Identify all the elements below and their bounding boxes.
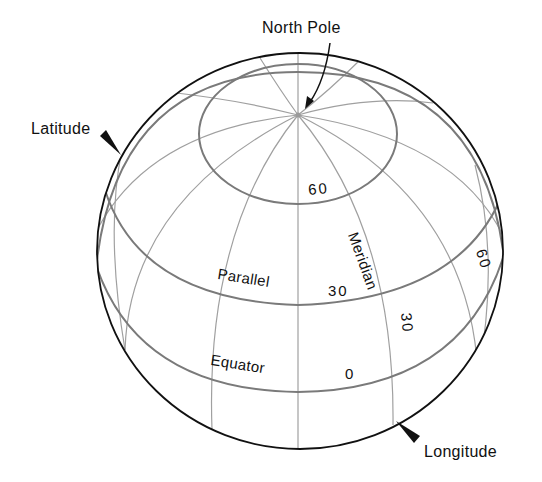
longitude-arrow-icon (396, 421, 420, 443)
parallel-30-front (105, 190, 500, 305)
meridian-east-90 (298, 115, 505, 240)
globe-outline (97, 53, 503, 449)
label-latitude: Latitude (31, 121, 90, 137)
globe-graphic (0, 0, 542, 482)
meridian-back-4 (298, 101, 433, 115)
equator (97, 258, 503, 392)
value-parallel-0: 0 (345, 366, 355, 381)
value-parallel-30: 30 (328, 283, 349, 298)
value-parallel-60: 60 (307, 180, 329, 197)
meridian-back-1 (260, 58, 298, 115)
label-north-pole: North Pole (262, 20, 341, 36)
label-longitude: Longitude (424, 444, 497, 460)
meridian-back-3 (168, 92, 298, 115)
latitude-arrow-icon (100, 130, 121, 155)
value-meridian-30: 30 (399, 312, 416, 334)
meridian-west-60 (125, 115, 298, 350)
globe-diagram: North Pole Latitude Longitude Meridian P… (0, 0, 542, 482)
north-pole-point (296, 113, 301, 118)
